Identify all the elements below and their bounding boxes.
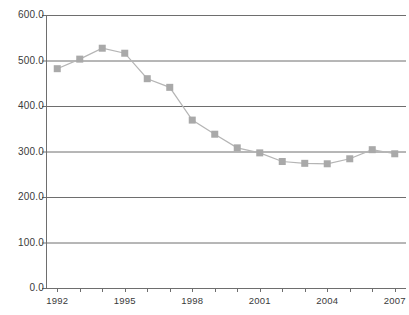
- x-axis-tick-label-2007: 2007: [375, 296, 409, 306]
- x-axis-labels: 199219951998200120042007: [0, 0, 409, 315]
- x-axis-tick-label-2001: 2001: [240, 296, 280, 306]
- x-axis-tick-label-1992: 1992: [37, 296, 77, 306]
- x-axis-tick-label-1998: 1998: [172, 296, 212, 306]
- x-axis-tick-label-2004: 2004: [307, 296, 347, 306]
- chart-container: 0.0100.0200.0300.0400.0500.0600.0 199219…: [0, 0, 409, 315]
- x-axis-tick-label-1995: 1995: [105, 296, 145, 306]
